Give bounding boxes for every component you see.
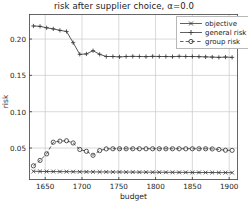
chart-title: risk after supplier choice, α=0.0 xyxy=(0,1,248,11)
y-tick-label: 0.05 xyxy=(10,144,26,153)
legend-label-objective: objective xyxy=(203,20,237,28)
legend-item-general-risk: general risk xyxy=(179,28,246,37)
legend-item-group-risk: group risk xyxy=(179,37,246,46)
legend-label-general-risk: general risk xyxy=(203,29,246,37)
chart-legend: objective general risk group risk xyxy=(176,16,248,49)
x-tick-label: 1700 xyxy=(73,182,91,191)
y-tick-label: 0.10 xyxy=(10,107,26,116)
y-tick-label: 0.20 xyxy=(10,35,26,44)
legend-item-objective: objective xyxy=(179,19,246,28)
y-axis-label: risk xyxy=(1,79,10,125)
y-tick-label: 0.15 xyxy=(10,71,26,80)
x-tick-label: 1650 xyxy=(36,182,54,191)
legend-label-group-risk: group risk xyxy=(203,38,240,46)
x-tick-label: 1850 xyxy=(183,182,201,191)
group-risk-marker-icon xyxy=(179,37,203,46)
chart-figure: risk after supplier choice, α=0.0 0.050.… xyxy=(0,0,248,206)
x-tick-label: 1800 xyxy=(146,182,164,191)
general-risk-marker-icon xyxy=(179,28,203,37)
x-tick-label: 1900 xyxy=(220,182,238,191)
objective-marker-icon xyxy=(179,19,203,28)
x-tick-label: 1750 xyxy=(110,182,128,191)
x-axis-label: budget xyxy=(29,192,238,201)
